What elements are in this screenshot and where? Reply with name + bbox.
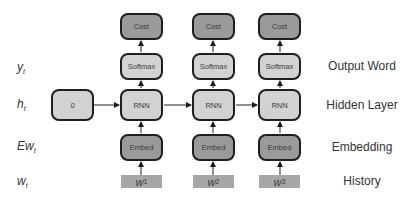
rnn-node-3: RNN [258, 89, 301, 121]
softmax-node-2: Softmax [192, 53, 235, 80]
label-yt: yt [17, 60, 25, 75]
softmax-node-3: Softmax [258, 53, 301, 80]
label-history: History [322, 174, 402, 188]
embed-node-3: Embed [258, 134, 301, 161]
label-ewt: Ewt [17, 139, 36, 154]
cost-node-2: Cost [192, 13, 235, 40]
label-ht: ht [17, 97, 26, 112]
history-word-1: w1 [121, 175, 162, 188]
embed-node-1: Embed [120, 134, 163, 161]
history-word-2: w2 [193, 175, 234, 188]
label-embedding: Embedding [322, 140, 402, 154]
initial-state-node: 0 [51, 89, 94, 121]
rnn-node-1: RNN [120, 89, 163, 121]
softmax-node-1: Softmax [120, 53, 163, 80]
rnn-node-2: RNN [192, 89, 235, 121]
embed-node-2: Embed [192, 134, 235, 161]
cost-node-3: Cost [258, 13, 301, 40]
label-output-word: Output Word [322, 59, 402, 73]
label-wt: wt [17, 174, 28, 189]
history-word-3: w3 [259, 175, 300, 188]
label-hidden-layer: Hidden Layer [322, 98, 402, 112]
cost-node-1: Cost [120, 13, 163, 40]
